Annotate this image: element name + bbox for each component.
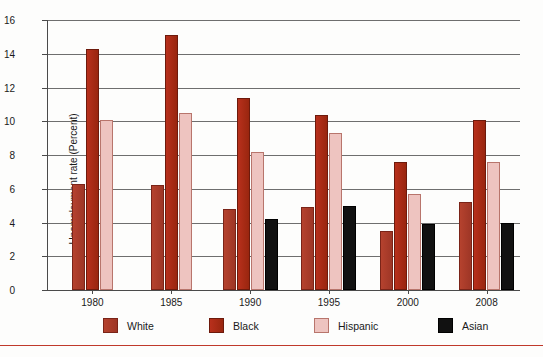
bar-hispanic-1990 xyxy=(251,152,264,290)
y-tick-label-4: 4 xyxy=(9,217,15,228)
bar-black-1995 xyxy=(315,115,328,291)
bar-group-2008 xyxy=(459,20,514,290)
legend-swatch-black-icon xyxy=(209,318,224,333)
bar-white-1985 xyxy=(151,185,164,290)
legend-label-white: White xyxy=(127,320,154,332)
x-tick-2000 xyxy=(408,290,409,294)
x-axis-label-2008: 2008 xyxy=(475,297,497,308)
bar-white-1980 xyxy=(72,184,85,290)
x-tick-1985 xyxy=(171,290,172,294)
y-tick-14 xyxy=(42,54,47,55)
x-tick-1990 xyxy=(250,290,251,294)
bar-asian-1995 xyxy=(343,206,356,290)
bar-black-1980 xyxy=(86,49,99,290)
bar-hispanic-2008 xyxy=(487,162,500,290)
legend-swatch-asian-icon xyxy=(438,318,453,333)
bar-hispanic-1980 xyxy=(100,120,113,290)
bar-white-1995 xyxy=(301,207,314,290)
bar-asian-2008 xyxy=(501,223,514,291)
bar-asian-2000 xyxy=(422,224,435,290)
x-axis-label-1985: 1985 xyxy=(160,297,182,308)
legend-item-black[interactable]: Black xyxy=(209,318,314,333)
bar-group-1990 xyxy=(223,20,278,290)
bar-group-1980 xyxy=(72,20,113,290)
y-tick-label-0: 0 xyxy=(9,285,15,296)
y-tick-label-2: 2 xyxy=(9,251,15,262)
bottom-divider xyxy=(0,345,543,346)
unemployment-rate-bar-chart: Unemployment rate (Percent) 198019851990… xyxy=(0,0,543,357)
legend-swatch-hispanic-icon xyxy=(314,318,329,333)
legend-label-hispanic: Hispanic xyxy=(338,320,378,332)
legend-item-hispanic[interactable]: Hispanic xyxy=(314,318,438,333)
x-tick-1995 xyxy=(329,290,330,294)
bar-groups: 198019851990199520002008 xyxy=(47,20,520,290)
bar-black-1985 xyxy=(165,35,178,290)
bar-white-2000 xyxy=(380,231,393,290)
legend-item-white[interactable]: White xyxy=(103,318,209,333)
y-tick-8 xyxy=(42,155,47,156)
bar-hispanic-2000 xyxy=(408,194,421,290)
y-tick-label-16: 16 xyxy=(4,15,15,26)
bar-group-2000 xyxy=(380,20,435,290)
bar-asian-1990 xyxy=(265,219,278,290)
x-tick-2008 xyxy=(487,290,488,294)
x-axis-label-1980: 1980 xyxy=(81,297,103,308)
y-tick-4 xyxy=(42,223,47,224)
x-tick-1980 xyxy=(92,290,93,294)
y-tick-10 xyxy=(42,121,47,122)
bar-black-2008 xyxy=(473,120,486,290)
y-tick-2 xyxy=(42,256,47,257)
bar-white-1990 xyxy=(223,209,236,290)
y-tick-16 xyxy=(42,20,47,21)
x-axis-label-1995: 1995 xyxy=(318,297,340,308)
bar-hispanic-1995 xyxy=(329,133,342,290)
bar-group-1985 xyxy=(151,20,192,290)
legend-label-asian: Asian xyxy=(462,320,488,332)
y-tick-label-14: 14 xyxy=(4,48,15,59)
y-tick-label-12: 12 xyxy=(4,82,15,93)
y-tick-12 xyxy=(42,88,47,89)
bar-black-1990 xyxy=(237,98,250,290)
bar-white-2008 xyxy=(459,202,472,290)
bar-black-2000 xyxy=(394,162,407,290)
x-axis-label-1990: 1990 xyxy=(239,297,261,308)
bar-group-1995 xyxy=(301,20,356,290)
y-tick-label-6: 6 xyxy=(9,183,15,194)
y-tick-label-10: 10 xyxy=(4,116,15,127)
legend-label-black: Black xyxy=(233,320,259,332)
legend-swatch-white-icon xyxy=(103,318,118,333)
gridline-0 xyxy=(47,290,520,291)
y-tick-label-8: 8 xyxy=(9,150,15,161)
legend-item-asian[interactable]: Asian xyxy=(438,318,538,333)
plot-area: 198019851990199520002008 0246810121416 xyxy=(47,20,520,290)
y-tick-0 xyxy=(42,290,47,291)
bar-hispanic-1985 xyxy=(179,113,192,290)
y-tick-6 xyxy=(42,189,47,190)
chart-legend: WhiteBlackHispanicAsian xyxy=(0,318,543,333)
x-axis-label-2000: 2000 xyxy=(397,297,419,308)
